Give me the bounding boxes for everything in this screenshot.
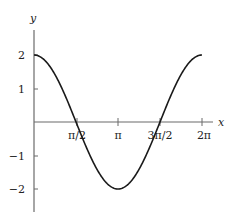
y-tick-label-neg2: −2	[9, 183, 25, 196]
y-tick-label-2: 2	[18, 49, 25, 62]
x-tick-label-3pi-half: 3π/2	[148, 129, 173, 142]
x-tick-label-2pi: 2π	[197, 129, 211, 142]
y-tick-label-neg1: −1	[9, 150, 25, 163]
x-tick-label-pi: π	[114, 129, 121, 142]
cosine-chart: y x 2 1 −1 −2 π/2 π 3π/2 2π	[0, 0, 236, 224]
y-axis-label: y	[29, 12, 37, 25]
y-tick-label-1: 1	[18, 83, 25, 96]
x-axis-label: x	[218, 116, 225, 129]
